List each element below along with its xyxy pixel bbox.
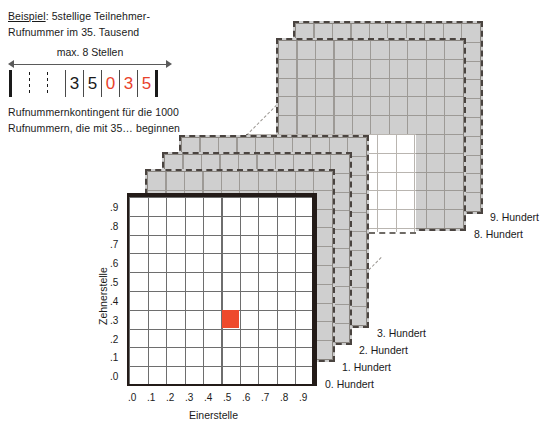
digit-cell-3: 3: [66, 70, 83, 97]
y-tick-9: .0: [110, 372, 118, 382]
y-tick-6: .3: [110, 316, 118, 326]
digit-box-right-cap: [155, 70, 158, 97]
caption-line-2: Rufnummer im 35. Tausend: [8, 24, 238, 40]
y-tick-3: .6: [110, 259, 118, 269]
caption-underlined-word: Beispiel: [8, 10, 46, 22]
diagram-canvas: Beispiel: 5stellige Teilnehmer- Rufnumme…: [0, 0, 557, 439]
y-tick-7: .2: [110, 335, 118, 345]
note-line-1: Rufnummernkontingent für die 1000: [8, 104, 238, 120]
x-tick-4: .4: [204, 393, 212, 403]
digit-boxes: 3 5 0 3 5: [9, 70, 158, 97]
digit-cell-7: 5: [138, 70, 155, 97]
plane-0-hundert: [127, 193, 317, 386]
digit-cell-5: 0: [102, 70, 119, 97]
x-tick-6: .6: [242, 393, 250, 403]
note-line-2: Rufnummern, die mit 35… beginnen: [8, 120, 238, 136]
y-tick-0: .9: [110, 203, 118, 213]
x-tick-3: .3: [185, 393, 193, 403]
x-tick-0: .0: [128, 393, 136, 403]
plane-label-1-hundert: 1. Hundert: [342, 361, 391, 373]
caption-block: Beispiel: 5stellige Teilnehmer- Rufnumme…: [8, 8, 238, 40]
plane-label-0-hundert: 0. Hundert: [325, 378, 374, 390]
note-block: Rufnummernkontingent für die 1000 Rufnum…: [8, 104, 238, 136]
x-tick-7: .7: [261, 393, 269, 403]
y-axis-title: Zehnerstelle: [97, 267, 109, 325]
plane-label-9-hundert: 9. Hundert: [490, 211, 539, 223]
y-tick-1: .8: [110, 222, 118, 232]
digit-cell-0: [12, 70, 29, 97]
digit-cell-4: 5: [84, 70, 101, 97]
x-tick-1: .1: [147, 393, 155, 403]
x-tick-2: .2: [166, 393, 174, 403]
arrow-left-icon: [8, 60, 14, 68]
digit-cell-6: 3: [120, 70, 137, 97]
plane-label-3-hundert: 3. Hundert: [377, 327, 426, 339]
highlighted-cell: [222, 310, 240, 328]
plane-label-8-hundert: 8. Hundert: [474, 228, 523, 240]
measure-arrow: max. 8 Stellen: [8, 48, 172, 70]
digit-cell-2: [48, 70, 65, 97]
y-tick-5: .4: [110, 297, 118, 307]
measure-line: [11, 64, 169, 65]
x-tick-8: .8: [280, 393, 288, 403]
caption-line-1-rest: : 5stellige Teilnehmer-: [46, 10, 150, 22]
y-tick-2: .7: [110, 240, 118, 250]
caption-line-1: Beispiel: 5stellige Teilnehmer-: [8, 8, 238, 24]
arrow-right-icon: [166, 60, 172, 68]
y-tick-8: .1: [110, 353, 118, 363]
x-tick-5: .5: [223, 393, 231, 403]
plane-label-2-hundert: 2. Hundert: [359, 344, 408, 356]
plane-0-grid: [129, 197, 312, 384]
x-axis-title: Einerstelle: [189, 409, 238, 421]
x-tick-9: .9: [299, 393, 307, 403]
y-tick-4: .5: [110, 278, 118, 288]
digit-cell-1: [30, 70, 47, 97]
measure-label: max. 8 Stellen: [8, 46, 172, 58]
